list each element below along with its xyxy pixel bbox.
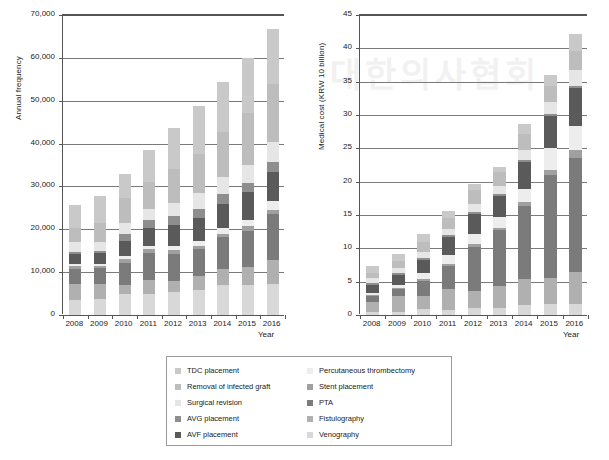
bar-segment [119,234,131,241]
x-axis-label-left: Year [258,330,274,339]
legend-item[interactable]: AVG placement [175,411,270,427]
y-axis-label-left: Annual frequency [14,56,23,120]
bar-segment [217,132,229,177]
bar-segment [94,223,106,242]
bar-segment [468,291,481,308]
bar-segment [143,228,155,246]
bar-segment [518,279,531,305]
bar-segment [417,279,430,281]
bar-segment [217,177,229,195]
bar-segment [193,290,205,315]
bar-segment [69,252,81,254]
bar-segment [267,84,279,142]
y-axis-tick [356,182,360,183]
bar-segment [569,70,582,87]
bar-2012 [468,184,481,315]
stacked-bar-figure: 대한의사협회 Annual frequency Year 010,00020,0… [0,0,609,460]
bar-segment [518,124,531,135]
legend-item-label: Surgical revision [187,399,242,407]
y-axis-tick [59,186,63,187]
y-axis-tick [59,15,63,16]
legend-swatch-icon [175,432,181,438]
bar-segment [143,182,155,209]
bar-segment [417,281,430,296]
bar-segment [267,201,279,209]
legend-item[interactable]: Venography [307,427,415,443]
bar-2008 [366,266,379,315]
bar-segment [392,273,405,275]
bar-segment [468,190,481,205]
bar-segment [468,308,481,315]
bar-2015 [544,75,557,315]
bar-segment [143,294,155,315]
bar-segment [119,223,131,234]
legend-swatch-icon [307,400,313,406]
bar-segment [569,150,582,158]
y-axis-tick-label: 45 [305,9,352,18]
bar-segment [69,205,81,228]
bar-segment [442,218,455,229]
bar-segment [193,246,205,250]
axis-baseline [63,315,284,316]
bar-segment [242,192,254,219]
bar-segment [468,234,481,244]
bar-2011 [143,150,155,315]
legend-swatch-icon [307,416,313,422]
bar-segment [143,253,155,280]
bar-segment [442,229,455,235]
y-axis-tick [59,272,63,273]
gridline [360,15,587,16]
bar-segment [544,102,557,113]
bar-segment [366,266,379,273]
bar-segment [242,267,254,285]
y-axis-tick-label: 40 [305,42,352,51]
bar-segment [119,294,131,315]
legend-item-label: Fistulography [319,415,364,423]
bar-2014 [217,82,229,315]
bar-segment [168,128,180,169]
legend-item[interactable]: Fistulography [307,411,415,427]
bar-segment [168,281,180,292]
bar-segment [392,275,405,285]
legend-item[interactable]: PTA [307,395,415,411]
bar-segment [493,196,506,217]
bar-segment [417,296,430,309]
legend-item[interactable]: AVF placement [175,427,270,443]
bar-segment [468,247,481,291]
legend-item[interactable]: TDC placement [175,363,270,379]
bar-segment [69,254,81,264]
bar-segment [392,261,405,268]
bar-segment [468,212,481,214]
y-axis-tick-label: 0 [305,309,352,318]
bar-segment [143,209,155,220]
bar-segment [366,285,379,293]
bar-segment [242,226,254,230]
bar-segment [544,170,557,175]
bar-segment [119,256,131,259]
bar-segment [493,228,506,231]
legend-item[interactable]: Removal of infected graft [175,379,270,395]
bar-segment [417,258,430,260]
bar-segment [518,160,531,162]
bar-segment [242,231,254,267]
bar-2010 [417,234,430,315]
legend-item[interactable]: Stent placement [307,379,415,395]
bar-segment [442,264,455,267]
legend-item-label: TDC placement [187,367,239,375]
bar-segment [518,134,531,149]
legend-column-2: Percutaneous thrombectomyStent placement… [307,363,415,443]
plot-area-right [359,14,587,314]
bar-segment [518,202,531,206]
legend-item[interactable]: Percutaneous thrombectomy [307,363,415,379]
bar-segment [569,126,582,151]
legend-item-label: Removal of infected graft [187,383,270,391]
y-axis-tick [356,215,360,216]
bar-segment [193,106,205,154]
legend-item[interactable]: Surgical revision [175,395,270,411]
bar-segment [493,167,506,172]
y-axis-tick-label: 20,000 [0,223,55,232]
bar-segment [442,211,455,218]
bar-segment [267,142,279,163]
bar-segment [242,220,254,226]
y-axis-tick-label: 15 [305,209,352,218]
